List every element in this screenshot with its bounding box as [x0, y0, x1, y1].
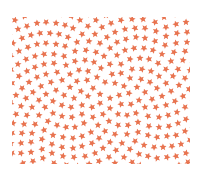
- star-icon: [37, 82, 45, 90]
- star-icon: [183, 38, 190, 46]
- star-spiral-pattern: [12, 17, 190, 164]
- star-icon: [78, 142, 86, 150]
- star-icon: [122, 35, 130, 43]
- star-icon: [138, 65, 146, 73]
- star-icon: [48, 140, 56, 148]
- star-icon: [62, 61, 70, 69]
- star-icon: [50, 50, 58, 58]
- star-icon: [144, 112, 152, 120]
- star-icon: [85, 160, 93, 164]
- star-icon: [42, 39, 50, 47]
- star-icon: [96, 90, 104, 98]
- star-icon: [137, 75, 145, 83]
- star-icon: [12, 17, 19, 24]
- star-icon: [154, 59, 162, 67]
- star-icon: [134, 128, 142, 136]
- star-icon: [111, 28, 119, 36]
- star-icon: [123, 111, 131, 119]
- star-icon: [31, 52, 39, 60]
- star-icon: [59, 133, 67, 141]
- star-icon: [132, 33, 140, 41]
- star-icon: [189, 123, 190, 131]
- star-icon: [71, 123, 79, 131]
- star-icon: [38, 135, 46, 143]
- star-icon: [185, 85, 190, 93]
- star-icon: [12, 30, 13, 38]
- star-icon: [172, 131, 180, 139]
- star-icon: [49, 109, 57, 117]
- star-icon: [84, 92, 92, 100]
- star-icon: [139, 17, 147, 23]
- star-icon: [170, 48, 178, 56]
- star-icon: [181, 74, 189, 82]
- star-icon: [53, 68, 61, 76]
- star-icon: [12, 139, 15, 147]
- star-icon: [27, 138, 35, 146]
- star-icon: [131, 24, 139, 32]
- star-icon: [175, 81, 183, 89]
- star-icon: [98, 23, 106, 31]
- star-icon: [182, 18, 190, 26]
- star-icon: [155, 123, 163, 131]
- star-icon: [167, 57, 175, 65]
- star-icon: [117, 69, 125, 77]
- star-icon: [82, 46, 90, 54]
- star-icon: [58, 143, 66, 151]
- star-icon: [103, 33, 111, 41]
- star-icon: [42, 18, 50, 26]
- star-icon: [71, 47, 79, 55]
- star-icon: [85, 17, 93, 18]
- star-icon: [12, 129, 16, 137]
- star-icon: [163, 132, 171, 140]
- star-icon: [85, 37, 93, 45]
- star-icon: [189, 57, 190, 65]
- star-icon: [53, 121, 61, 129]
- star-icon: [76, 17, 84, 24]
- star-icon: [141, 24, 149, 32]
- star-icon: [28, 103, 36, 111]
- star-icon: [14, 60, 22, 68]
- star-icon: [31, 63, 39, 71]
- star-icon: [17, 149, 25, 157]
- star-icon: [106, 94, 114, 102]
- star-icon: [153, 154, 161, 162]
- star-icon: [114, 110, 122, 118]
- star-icon: [58, 76, 66, 84]
- star-icon: [145, 55, 153, 63]
- star-icon: [140, 44, 148, 52]
- star-icon: [128, 158, 136, 164]
- star-icon: [168, 142, 176, 150]
- star-icon: [60, 52, 68, 60]
- star-icon: [66, 83, 74, 91]
- star-icon: [84, 22, 92, 30]
- star-icon: [23, 111, 31, 119]
- star-icon: [50, 159, 58, 164]
- star-icon: [170, 17, 178, 18]
- star-icon: [14, 25, 22, 33]
- star-icon: [58, 112, 66, 120]
- star-icon: [186, 66, 190, 74]
- star-icon: [149, 46, 157, 54]
- star-icon: [181, 47, 189, 55]
- star-icon: [17, 139, 25, 147]
- star-icon: [172, 152, 180, 160]
- star-icon: [113, 51, 121, 59]
- star-icon: [151, 37, 159, 45]
- star-icon: [61, 21, 69, 29]
- star-icon: [78, 101, 86, 109]
- star-icon: [12, 99, 15, 107]
- star-icon: [141, 34, 149, 42]
- star-icon: [88, 103, 96, 111]
- star-icon: [39, 154, 47, 162]
- star-icon: [136, 161, 144, 164]
- star-icon: [165, 122, 173, 130]
- star-icon: [92, 48, 100, 56]
- star-icon: [184, 158, 190, 164]
- star-icon: [108, 70, 116, 78]
- star-icon: [64, 33, 72, 41]
- star-icon: [130, 44, 138, 52]
- star-icon: [40, 60, 48, 68]
- star-icon: [174, 65, 182, 73]
- star-icon: [145, 122, 153, 130]
- star-icon: [31, 120, 39, 128]
